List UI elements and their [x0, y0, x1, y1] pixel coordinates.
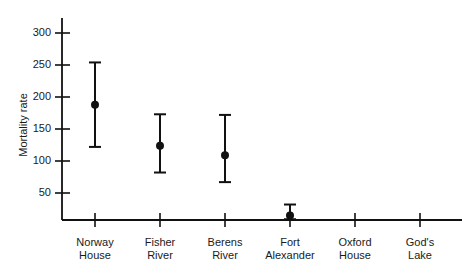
data-point-marker: [221, 151, 229, 159]
y-tick-label: 50: [39, 186, 51, 198]
mortality-rate-chart: 300 250 200 150 100 50 Mortality rate No…: [0, 0, 467, 270]
data-series-layer: [89, 62, 296, 219]
category-label-line2: House: [79, 249, 111, 261]
data-point-marker: [91, 101, 99, 109]
data-point-marker: [156, 142, 164, 150]
y-axis-title: Mortality rate: [17, 93, 29, 157]
y-tick-label: 250: [33, 58, 51, 70]
data-point-marker: [286, 211, 294, 219]
category-label-line1: Norway: [76, 236, 114, 248]
x-axis-category-labels: Norway House Fisher River Berens River F…: [76, 236, 434, 261]
category-label-line1: Fisher: [145, 236, 176, 248]
category-label-line1: Berens: [208, 236, 243, 248]
y-tick-label: 100: [33, 154, 51, 166]
data-point-group: [89, 62, 101, 146]
data-point-group: [284, 205, 296, 220]
category-label-line2: River: [147, 249, 173, 261]
y-tick-label: 150: [33, 122, 51, 134]
category-label-line1: Fort: [280, 236, 300, 248]
category-label-line2: River: [212, 249, 238, 261]
data-point-group: [219, 115, 231, 182]
category-label-line1: God's: [406, 236, 435, 248]
chart-canvas: 300 250 200 150 100 50 Mortality rate No…: [0, 0, 467, 270]
category-label-line1: Oxford: [338, 236, 371, 248]
category-label-line2: Lake: [408, 249, 432, 261]
data-point-group: [154, 114, 166, 172]
y-tick-label: 200: [33, 90, 51, 102]
y-axis-tick-labels: 300 250 200 150 100 50: [33, 26, 51, 198]
y-tick-label: 300: [33, 26, 51, 38]
category-label-line2: House: [339, 249, 371, 261]
category-label-line2: Alexander: [265, 249, 315, 261]
